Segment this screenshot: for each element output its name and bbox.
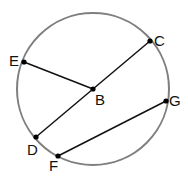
segment-FG bbox=[58, 101, 166, 156]
segment-EB bbox=[24, 62, 93, 89]
point-f-label: F bbox=[49, 157, 58, 174]
point-e-label: E bbox=[9, 52, 19, 69]
point-g-dot bbox=[163, 98, 168, 103]
circle-diagram: CEBDFG bbox=[0, 0, 188, 180]
point-e-dot bbox=[21, 59, 26, 64]
point-d-label: D bbox=[27, 141, 38, 158]
point-c-label: C bbox=[154, 32, 165, 49]
diagram-canvas: CEBDFG bbox=[0, 0, 188, 180]
point-b-label: B bbox=[95, 91, 105, 108]
labels-group: CEBDFG bbox=[9, 32, 181, 174]
point-g-label: G bbox=[169, 92, 181, 109]
point-c-dot bbox=[147, 38, 152, 43]
point-d-dot bbox=[33, 134, 38, 139]
